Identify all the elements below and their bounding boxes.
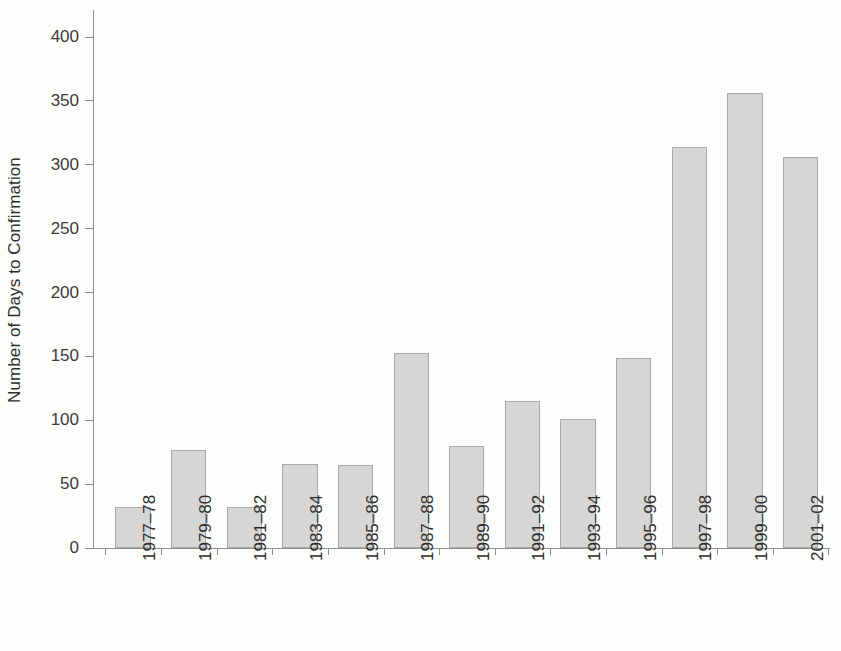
x-axis-tick-mark [384,548,385,555]
y-axis-tick-label: 350 [51,90,79,112]
y-axis-title-text: Number of Days to Confirmation [5,157,25,403]
bars-layer [93,10,830,548]
y-axis-tick-label: 200 [51,282,79,304]
y-axis-tick-label: 250 [51,218,79,240]
x-axis-tick-mark [495,548,496,555]
x-axis-tick-mark [717,548,718,555]
x-axis-tick-mark [217,548,218,555]
x-axis-tick-label-text: 1999–00 [752,495,772,561]
y-axis-tick-label: 300 [51,154,79,176]
x-axis-tick-mark [272,548,273,555]
y-axis-tick-label: 50 [60,473,79,495]
bar [727,93,762,548]
y-axis-tick-mark [85,356,93,357]
x-axis-tick-label-text: 1987–88 [418,495,438,561]
x-axis-tick-label-text: 1983–84 [307,495,327,561]
x-axis-tick-label-text: 1977–78 [140,495,160,561]
y-axis-tick-label: 150 [51,345,79,367]
x-axis-tick-label-text: 2001–02 [808,495,828,561]
x-axis-tick-label-text: 1993–94 [585,495,605,561]
x-axis-tick-mark [550,548,551,555]
x-axis-tick-mark [773,548,774,555]
y-axis-tick-mark [85,37,93,38]
bar [783,157,818,548]
y-axis-tick-mark [85,484,93,485]
x-axis-tick-mark [828,548,829,555]
y-axis-tick-label: 0 [70,537,79,559]
y-axis-tick-mark [85,292,93,293]
y-axis-tick-mark [85,228,93,229]
x-axis-tick-label-text: 1991–92 [529,495,549,561]
x-axis-tick-label-text: 1979–80 [196,495,216,561]
x-axis-tick-label-text: 1985–86 [363,495,383,561]
y-axis-tick-mark [85,164,93,165]
x-axis-tick-mark [161,548,162,555]
x-axis-tick-label-text: 1989–90 [474,495,494,561]
x-axis-tick-label-text: 1997–98 [696,495,716,561]
y-axis-tick-mark [85,548,93,549]
y-axis-tick-mark [85,100,93,101]
x-axis-tick-label-text: 1981–82 [251,495,271,561]
bar-chart: Number of Days to Confirmation 050100150… [0,0,841,651]
x-axis-tick-mark [328,548,329,555]
x-axis-tick-mark [606,548,607,555]
x-axis-tick-mark [439,548,440,555]
y-axis-tick-label: 100 [51,409,79,431]
x-axis-tick-label-text: 1995–96 [641,495,661,561]
y-axis-tick-mark [85,420,93,421]
y-axis-title: Number of Days to Confirmation [0,0,30,560]
bar [672,147,707,548]
y-axis-tick-label: 400 [51,26,79,48]
x-axis-tick-mark [105,548,106,555]
x-axis-tick-mark [662,548,663,555]
